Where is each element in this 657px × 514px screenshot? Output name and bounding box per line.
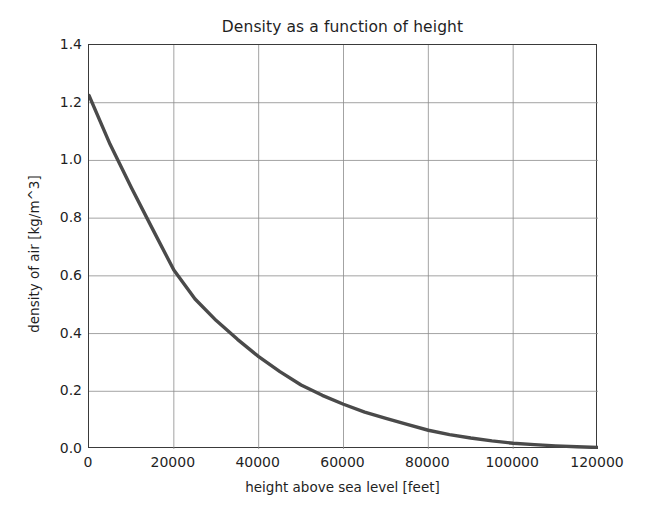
y-tick-label: 1.0 — [38, 151, 82, 167]
x-tick-label: 40000 — [235, 454, 280, 470]
y-tick-label: 0.8 — [38, 209, 82, 225]
x-tick-label: 120000 — [570, 454, 623, 470]
y-tick-label: 1.2 — [38, 94, 82, 110]
y-tick-label: 0.6 — [38, 267, 82, 283]
vertical-gridlines — [174, 45, 513, 449]
x-tick-label: 100000 — [485, 454, 538, 470]
x-tick-label: 80000 — [405, 454, 450, 470]
plot-area — [88, 44, 597, 448]
chart-title: Density as a function of height — [88, 18, 597, 36]
figure-canvas: Density as a function of height 0.00.20.… — [0, 0, 657, 514]
y-tick-label: 0.4 — [38, 325, 82, 341]
x-axis-tick-labels: 020000400006000080000100000120000 — [88, 454, 597, 476]
y-tick-label: 0.2 — [38, 382, 82, 398]
y-tick-label: 1.4 — [38, 36, 82, 52]
y-tick-label: 0.0 — [38, 440, 82, 456]
y-axis-label: density of air [kg/m^3] — [26, 144, 42, 364]
plot-svg — [89, 45, 598, 449]
x-tick-label: 0 — [84, 454, 93, 470]
x-tick-label: 20000 — [151, 454, 196, 470]
x-axis-label: height above sea level [feet] — [88, 479, 597, 495]
x-tick-label: 60000 — [320, 454, 365, 470]
